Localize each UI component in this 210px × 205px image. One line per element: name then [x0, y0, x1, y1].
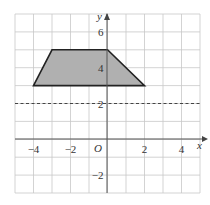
x-tick-label: 2	[142, 143, 148, 155]
axes: x y O	[15, 10, 208, 193]
x-tick-label: 4	[179, 143, 185, 155]
y-tick-label: 6	[98, 26, 104, 38]
origin-label: O	[94, 142, 102, 154]
y-tick-label: −2	[92, 169, 104, 181]
y-tick-label: 4	[98, 62, 104, 74]
x-axis-arrow-icon	[202, 136, 208, 142]
x-tick-label: −2	[65, 143, 77, 155]
x-tick-label: −4	[28, 143, 40, 155]
x-axis-label: x	[196, 139, 202, 151]
coordinate-grid-chart: x y O −4−224642−2	[0, 0, 210, 205]
y-tick-label: 2	[98, 98, 104, 110]
y-axis-label: y	[96, 10, 102, 22]
